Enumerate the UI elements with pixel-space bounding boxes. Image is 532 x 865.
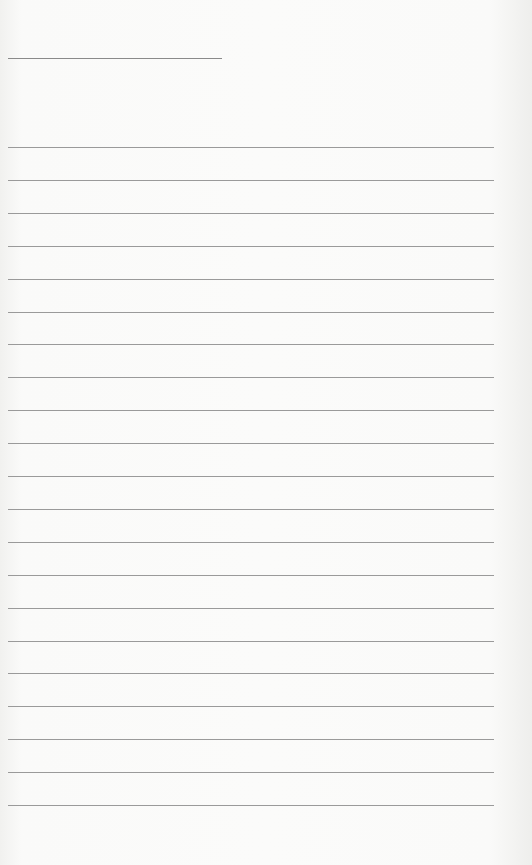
ruled-line [8,246,494,247]
lined-paper-page [0,0,532,865]
ruled-line [8,344,494,345]
ruled-line [8,608,494,609]
ruled-line [8,312,494,313]
ruled-line [8,476,494,477]
ruled-line [8,805,494,806]
ruled-line [8,180,494,181]
ruled-line [8,509,494,510]
title-line [8,58,222,59]
ruled-line [8,443,494,444]
ruled-line [8,213,494,214]
ruled-line [8,542,494,543]
ruled-line [8,410,494,411]
ruled-line [8,641,494,642]
ruled-line [8,279,494,280]
ruled-line [8,772,494,773]
ruled-line [8,673,494,674]
ruled-line [8,147,494,148]
ruled-line [8,706,494,707]
ruled-line [8,575,494,576]
ruled-line [8,739,494,740]
ruled-line [8,377,494,378]
